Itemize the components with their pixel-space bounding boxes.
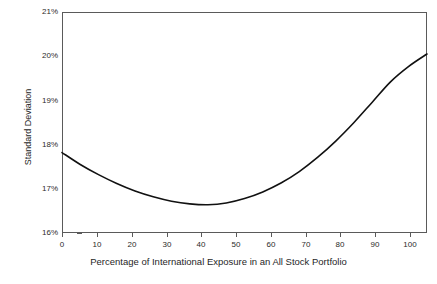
x-tick-label: 80 <box>325 241 355 249</box>
series-line-chart <box>62 12 427 233</box>
x-tick-mark <box>271 233 272 237</box>
x-tick-label: 20 <box>117 241 147 249</box>
x-tick-label: 60 <box>256 241 286 249</box>
x-tick-label: 10 <box>82 241 112 249</box>
series-line <box>62 54 427 205</box>
x-tick-label: 70 <box>291 241 321 249</box>
y-tick-label: 21% <box>24 8 58 16</box>
x-axis-title: Percentage of International Exposure in … <box>0 256 437 267</box>
x-tick-mark <box>306 233 307 237</box>
x-tick-mark <box>236 233 237 237</box>
x-tick-mark <box>375 233 376 237</box>
x-tick-label: 50 <box>221 241 251 249</box>
x-tick-mark <box>340 233 341 237</box>
x-tick-mark <box>132 233 133 237</box>
x-tick-label: 100 <box>395 241 425 249</box>
x-tick-mark <box>201 233 202 237</box>
chart-figure: 21% 20% 19% 18% 17% 16% Standard Deviati… <box>0 0 437 284</box>
x-tick-label: 40 <box>186 241 216 249</box>
x-tick-mark <box>410 233 411 237</box>
y-axis-title: Standard Deviation <box>23 52 33 202</box>
y-tick-label: 16% <box>24 229 58 237</box>
x-tick-mark <box>167 233 168 237</box>
x-tick-mark <box>62 233 63 237</box>
x-tick-label: 90 <box>360 241 390 249</box>
x-tick-label: 0 <box>47 241 77 249</box>
x-tick-label: 30 <box>152 241 182 249</box>
y-tick-mark <box>77 233 82 234</box>
x-tick-mark <box>97 233 98 237</box>
